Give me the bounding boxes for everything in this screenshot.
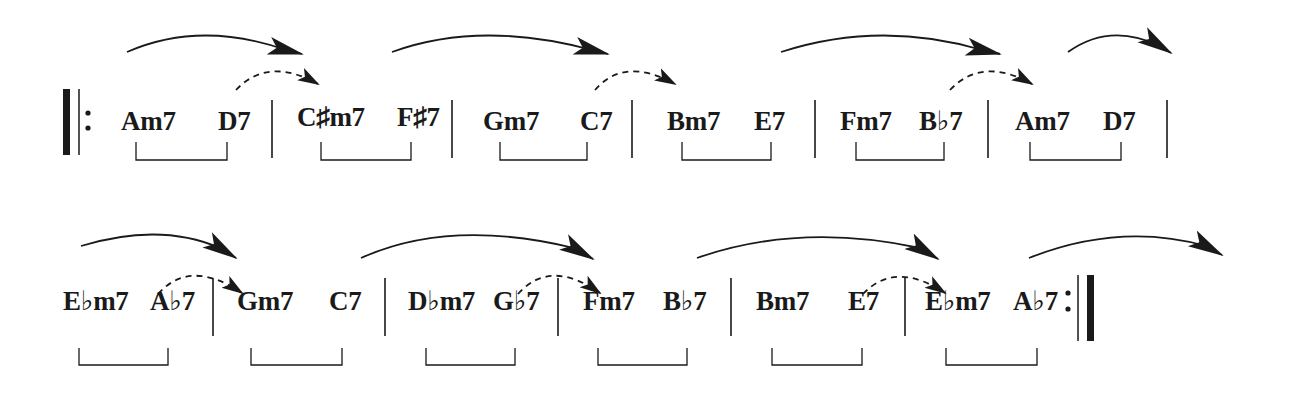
- chord: G♭7: [493, 288, 539, 315]
- row-1-brackets: [136, 142, 1121, 160]
- chord: E♭m7: [925, 288, 991, 315]
- chord: E7: [754, 108, 785, 135]
- chord: D7: [218, 108, 250, 135]
- row-2-repeat-end: [1065, 275, 1094, 341]
- chord: Bm7: [756, 288, 809, 315]
- chord: C7: [580, 108, 612, 135]
- chord: C♯m7: [297, 104, 365, 131]
- chord: Gm7: [237, 288, 293, 315]
- chord: D7: [1103, 108, 1135, 135]
- chord: E♭m7: [63, 288, 129, 315]
- repeat-dot: [1065, 306, 1070, 311]
- chord: A♭7: [150, 288, 195, 315]
- row-2-solid-arrows: [81, 234, 1222, 259]
- row-1-repeat-start: [63, 89, 91, 155]
- chord: D♭m7: [408, 288, 475, 315]
- chord: E7: [848, 288, 879, 315]
- chord: F♯7: [397, 104, 440, 131]
- chord: B♭7: [663, 288, 706, 315]
- repeat-dot: [1065, 290, 1070, 295]
- chord-progression-diagram: Am7 D7 C♯m7 F♯7 Gm7 C7 Bm7 E7 Fm7 B♭7 Am…: [0, 0, 1306, 396]
- thick-barline: [1087, 275, 1094, 341]
- repeat-dot: [85, 110, 90, 115]
- row-1-dashed-arrows: [236, 71, 1032, 90]
- chord: A♭7: [1013, 288, 1058, 315]
- chord: C7: [329, 288, 361, 315]
- row-1-solid-arrows: [127, 35, 1171, 54]
- chord: B♭7: [919, 108, 962, 135]
- chord: Gm7: [483, 108, 539, 135]
- chord: Am7: [121, 108, 176, 135]
- thick-barline: [63, 89, 70, 155]
- diagram-graphics: [0, 0, 1306, 396]
- chord: Fm7: [583, 288, 635, 315]
- row-2-brackets: [79, 348, 1037, 365]
- chord: Am7: [1015, 108, 1070, 135]
- chord: Fm7: [840, 108, 892, 135]
- repeat-dot: [85, 125, 90, 130]
- chord: Bm7: [667, 108, 720, 135]
